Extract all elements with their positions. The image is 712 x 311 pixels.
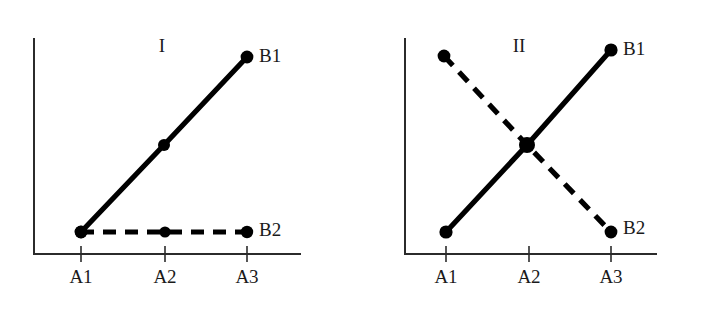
chart-panel-II: II B1 B2 A1 A2 A3: [356, 0, 712, 311]
chart-panel-I: I B1 B2 A1 A2 A3: [0, 0, 356, 311]
series-label-I-b1: B1: [259, 45, 281, 66]
data-point-II-b2-a3: [605, 226, 618, 239]
data-point-II-b2-a1: [438, 50, 451, 63]
series-label-II-b2: B2: [623, 217, 645, 238]
data-point-I-b1-a1: [75, 226, 88, 239]
chart-svg-I: I B1 B2 A1 A2 A3: [0, 0, 356, 311]
tick-label-I-a3: A3: [235, 266, 258, 287]
data-point-I-b1-a2: [158, 139, 170, 151]
data-point-I-b2-a3: [241, 226, 253, 238]
series-label-II-b1: B1: [623, 38, 645, 59]
figure-root: I B1 B2 A1 A2 A3: [0, 0, 712, 311]
data-point-II-b1-a3: [604, 43, 617, 56]
data-point-II-b1-a1: [439, 225, 452, 238]
data-point-I-b1-a3: [241, 51, 254, 64]
panel-title-I: I: [159, 35, 165, 56]
tick-label-II-a2: A2: [517, 266, 540, 287]
tick-label-I-a1: A1: [69, 266, 92, 287]
tick-label-I-a2: A2: [153, 266, 176, 287]
data-point-II-crossover: [519, 137, 535, 153]
series-label-I-b2: B2: [259, 219, 281, 240]
chart-svg-II: II B1 B2 A1 A2 A3: [356, 0, 712, 311]
tick-label-II-a1: A1: [434, 266, 457, 287]
panel-title-II: II: [513, 35, 526, 56]
data-point-I-b2-a2: [159, 226, 170, 237]
tick-label-II-a3: A3: [599, 266, 622, 287]
